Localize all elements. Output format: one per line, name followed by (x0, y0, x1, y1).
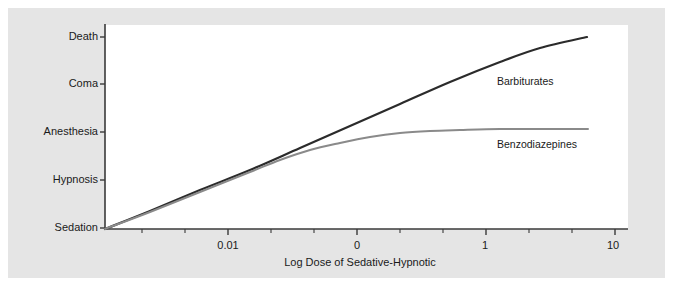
x-axis-title: Log Dose of Sedative-Hypnotic (160, 256, 560, 268)
y-axis-tick-label: Sedation (20, 222, 98, 233)
y-axis-tick-label: Coma (20, 78, 98, 89)
x-axis-tick-label: 0 (327, 240, 387, 251)
figure-container: DeathComaAnesthesiaHypnosisSedation 0.01… (0, 0, 675, 299)
y-axis-tick-label: Hypnosis (20, 174, 98, 185)
x-axis-tick-label: 10 (583, 240, 643, 251)
series-group (105, 37, 588, 229)
y-axis-tick-label: Death (20, 31, 98, 42)
series-label-benzodiazepines: Benzodiazepines (497, 138, 577, 150)
x-axis-tick-label: 0.01 (198, 240, 258, 251)
series-label-barbiturates: Barbiturates (497, 75, 554, 87)
x-axis-tick-label: 1 (455, 240, 515, 251)
y-axis-tick-label: Anesthesia (20, 126, 98, 137)
